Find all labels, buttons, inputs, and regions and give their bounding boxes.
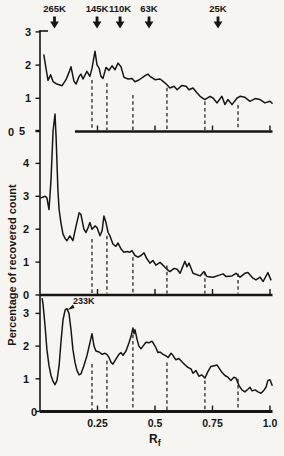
- y-tick-label-bottom-0: 0: [31, 406, 37, 417]
- curve-top: [44, 51, 272, 104]
- x-tick-label-0.75: 0.75: [202, 418, 222, 429]
- y-tick-label-bottom-1: 1: [23, 373, 29, 384]
- x-axis-title-main: R: [149, 432, 158, 446]
- y-tick-label-middle-0: 0: [23, 290, 29, 301]
- marker-label-145K: 145K: [86, 4, 109, 14]
- marker-arrow-icon-25K: [214, 17, 223, 29]
- y-tick-label-bottom-3: 3: [23, 308, 29, 319]
- marker-label-265K: 265K: [43, 4, 66, 14]
- y-tick-label-middle-2: 2: [23, 224, 29, 235]
- y-tick-label-bottom-2: 2: [23, 341, 29, 352]
- x-axis-title-sub: f: [158, 438, 161, 448]
- x-tick-label-1.0: 1.0: [263, 418, 278, 429]
- marker-arrow-icon-63K: [145, 17, 154, 29]
- y-tick-label-top-3: 3: [25, 26, 31, 37]
- marker-arrow-icon-145K: [93, 17, 102, 29]
- peak-annotation-233k: 233K: [73, 297, 95, 306]
- x-axis-title: Rf: [149, 433, 161, 448]
- y-tick-label-top-1: 1: [25, 93, 31, 104]
- curve-middle: [41, 114, 271, 281]
- y-tick-label-top-2: 2: [25, 60, 31, 71]
- marker-arrow-icon-110K: [116, 17, 125, 29]
- figure: Percentage of recovered count Rf 233K 32…: [0, 0, 284, 456]
- x-tick-label-0.5: 0.5: [148, 418, 163, 429]
- plot-canvas: [0, 0, 284, 456]
- marker-label-110K: 110K: [109, 4, 131, 14]
- y-tick-label-middle-3: 3: [23, 191, 29, 202]
- x-tick-label-0.25: 0.25: [87, 418, 107, 429]
- y-tick-label-middle-5: 5: [19, 125, 25, 136]
- y-axis-title: Percentage of recovered count: [7, 184, 18, 345]
- y-tick-label-top-0: 0: [8, 126, 14, 137]
- y-tick-label-middle-1: 1: [23, 257, 29, 268]
- marker-arrow-icon-265K: [50, 17, 59, 29]
- y-tick-label-middle-4: 4: [23, 158, 29, 169]
- marker-label-25K: 25K: [209, 4, 226, 14]
- marker-label-63K: 63K: [140, 4, 157, 14]
